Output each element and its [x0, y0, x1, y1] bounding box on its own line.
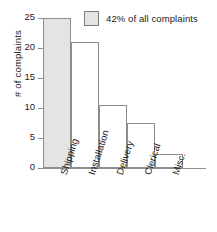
y-axis-title: # of complaints — [12, 9, 23, 119]
y-tick-label: 10 — [24, 102, 35, 112]
y-tick-label: 5 — [30, 132, 35, 142]
y-tick-label: 20 — [24, 42, 35, 52]
y-tick-label: 25 — [24, 12, 35, 22]
plot-area: 0510152025 ShippingInstallationDeliveryC… — [43, 18, 206, 168]
y-tick-label: 15 — [24, 72, 35, 82]
bar-chart: 42% of all complaints # of complaints 05… — [0, 0, 217, 232]
y-tick-label: 0 — [30, 162, 35, 172]
y-tick: 0 — [38, 168, 43, 169]
